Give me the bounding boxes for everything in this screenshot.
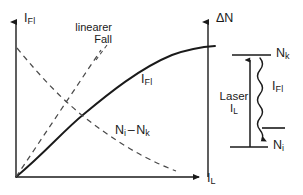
linear-case-leader (96, 45, 107, 60)
population-difference-curve (17, 48, 176, 171)
y-axis-right-label-main: ΔN (216, 11, 233, 25)
x-axis-label: IL (207, 172, 216, 186)
laser-pump-label-sub: L (233, 107, 238, 116)
fluorescence-saturation-curve (16, 46, 215, 177)
popdiff-label-main1: N (115, 123, 124, 137)
y-axis-left-label: IFl (24, 12, 35, 26)
laser-pump-label-line1: Laser (219, 90, 249, 102)
popdiff-label-main2: N (136, 123, 145, 137)
fluorescence-curve-label-sub: Fl (144, 77, 152, 87)
linear-case-annotation-line1: linearer (52, 22, 112, 34)
lower-level-label-main: N (273, 138, 282, 152)
laser-pump-label: Laser IL (219, 90, 249, 117)
popdiff-label-sep: – (126, 123, 136, 137)
lower-level-label-sub: i (282, 143, 284, 153)
upper-level-label-main: N (276, 46, 285, 60)
popdiff-label-sub2: k (145, 128, 150, 138)
x-axis-label-sub: L (210, 176, 215, 186)
linear-case-annotation-line2: Fall (52, 34, 112, 46)
y-axis-left-label-sub: Fl (27, 16, 35, 26)
diagram-canvas (0, 0, 303, 195)
linear-case-line (16, 50, 101, 177)
y-axis-right-label: ΔN (216, 12, 233, 25)
linear-case-annotation: linearer Fall (52, 22, 112, 45)
upper-level-label-sub: k (285, 51, 290, 61)
population-difference-curve-label: Ni–Nk (115, 124, 150, 138)
emission-label-sub: Fl (275, 84, 283, 94)
fluorescence-wavy-arrow (258, 58, 263, 139)
lower-level-label: Ni (273, 139, 284, 153)
figure-container: IFl ΔN IL linearer Fall IFl Ni–Nk Nk Ni … (0, 0, 303, 195)
laser-pump-label-line2: IL (219, 102, 249, 117)
emission-label: IFl (272, 80, 283, 94)
upper-level-label: Nk (276, 47, 290, 61)
fluorescence-curve-label: IFl (141, 73, 152, 87)
